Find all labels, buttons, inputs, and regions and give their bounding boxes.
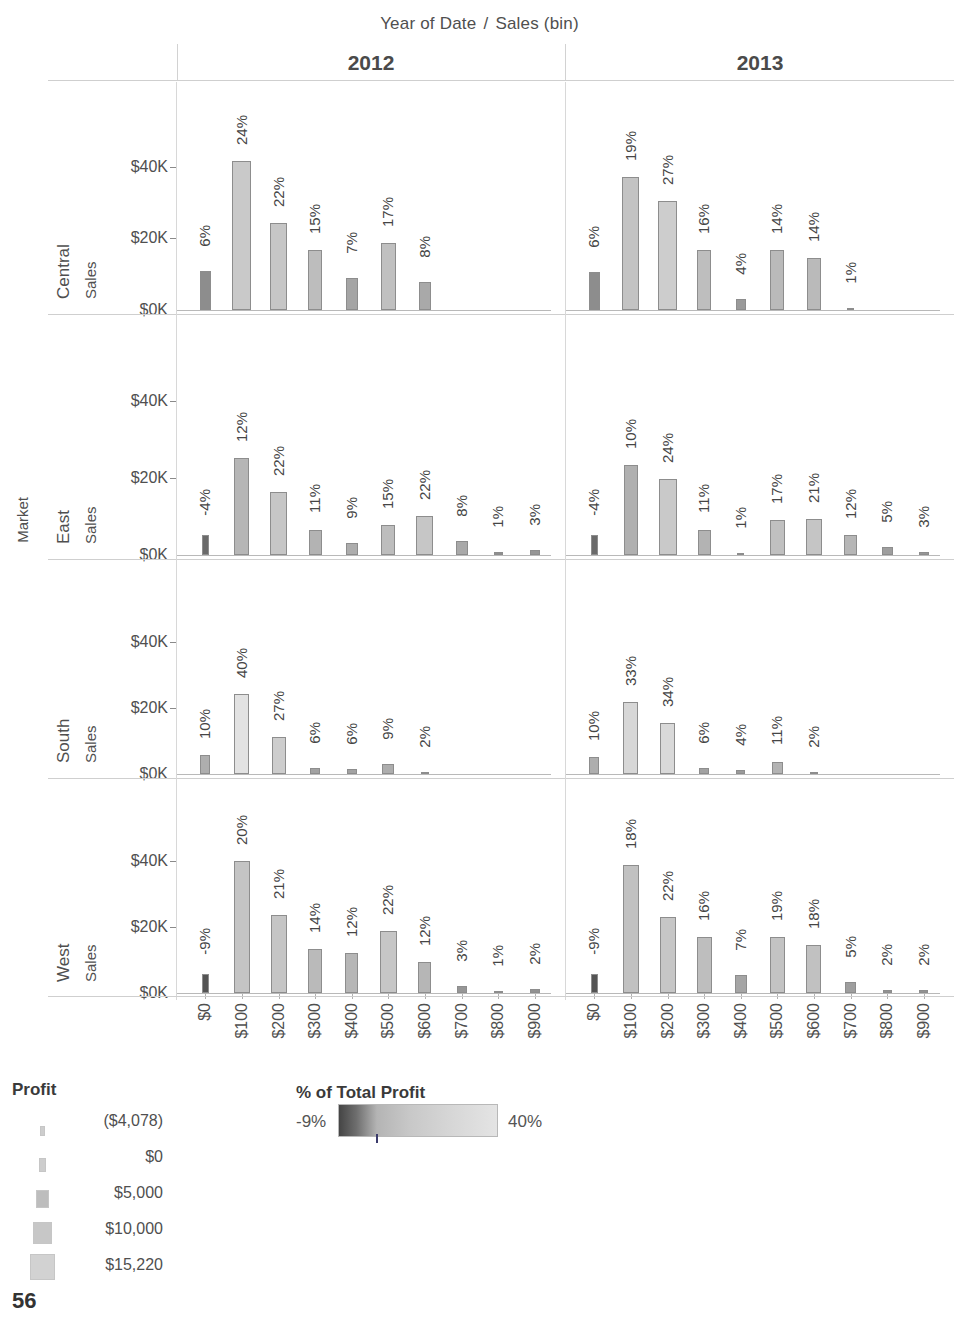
bar-central-2013--200[interactable] [658,201,677,310]
x-tick-label--500[interactable]: $500 [768,1003,786,1039]
bar-west-2013--800[interactable] [883,990,892,993]
bar-central-2013--300[interactable] [697,250,711,310]
x-tick-label--400[interactable]: $400 [343,1003,361,1039]
x-tick-label--400[interactable]: $400 [732,1003,750,1039]
bar-east-2012--200[interactable] [270,492,287,555]
bar-east-2012--700[interactable] [456,541,468,555]
bar-east-2012--400[interactable] [346,543,358,555]
bar-east-2013--300[interactable] [698,530,711,555]
x-tick-label--300[interactable]: $300 [695,1003,713,1039]
bar-east-2012--900[interactable] [530,550,540,555]
bar-west-2013--300[interactable] [697,937,712,993]
x-tick-label--800[interactable]: $800 [489,1003,507,1039]
bar-west-2013--900[interactable] [919,990,928,993]
bar-central-2012--500[interactable] [381,243,396,310]
legend-profit-item[interactable]: $15,220 [12,1252,177,1282]
bar-central-2013--700[interactable] [847,308,854,310]
bar-east-2013--600[interactable] [806,519,822,555]
x-tick-label--600[interactable]: $600 [805,1003,823,1039]
bar-south-2012--500[interactable] [382,764,394,774]
bar-central-2012--100[interactable] [232,161,251,310]
bar-west-2013--500[interactable] [770,937,785,993]
bar-east-2012--100[interactable] [234,458,249,555]
bar-east-2012--0[interactable] [202,535,209,555]
bar-south-2012--200[interactable] [272,737,286,774]
bar-west-2013--200[interactable] [660,917,676,993]
bar-south-2012--600[interactable] [421,772,429,774]
x-tick-label--100[interactable]: $100 [622,1003,640,1039]
bar-south-2012--400[interactable] [347,769,357,774]
bar-central-2012--0[interactable] [200,271,211,310]
bar-west-2013--600[interactable] [806,945,821,993]
bar-east-2012--800[interactable] [494,552,503,555]
bar-west-2013--700[interactable] [845,982,856,993]
x-tick-label--0[interactable]: $0 [585,1003,603,1021]
x-tick-label--600[interactable]: $600 [416,1003,434,1039]
bar-east-2012--600[interactable] [416,516,433,555]
row-header-east[interactable]: East [54,330,74,544]
x-tick-label--800[interactable]: $800 [878,1003,896,1039]
bar-south-2012--300[interactable] [310,768,320,774]
bar-central-2012--300[interactable] [308,250,322,310]
x-tick-label--0[interactable]: $0 [196,1003,214,1021]
bar-central-2013--400[interactable] [736,299,746,310]
bar-east-2013--100[interactable] [624,465,638,555]
legend-profit-item[interactable]: ($4,078) [12,1108,177,1138]
bar-south-2012--100[interactable] [234,694,249,774]
row-header-west[interactable]: West [54,794,74,982]
bar-west-2012--600[interactable] [418,962,431,993]
column-header-2013[interactable]: 2013 [566,48,954,78]
bar-west-2012--0[interactable] [202,974,209,993]
bar-west-2012--200[interactable] [271,915,287,993]
bar-central-2013--600[interactable] [807,258,821,310]
x-tick-label--900[interactable]: $900 [526,1003,544,1039]
bar-south-2013--600[interactable] [810,772,818,774]
bar-west-2013--0[interactable] [591,974,598,993]
bar-central-2012--600[interactable] [419,282,431,310]
bar-east-2013--800[interactable] [882,547,893,555]
bar-central-2012--400[interactable] [346,278,358,310]
bar-west-2012--400[interactable] [345,953,358,993]
bar-west-2012--900[interactable] [530,989,540,993]
bar-south-2013--500[interactable] [772,762,783,774]
x-tick-label--200[interactable]: $200 [270,1003,288,1039]
bar-east-2013--200[interactable] [659,479,677,555]
bar-east-2013--500[interactable] [770,520,785,555]
bar-central-2013--100[interactable] [622,177,639,310]
bar-west-2012--100[interactable] [234,861,250,993]
bar-west-2012--700[interactable] [457,986,467,993]
x-tick-label--700[interactable]: $700 [842,1003,860,1039]
bar-west-2013--100[interactable] [623,865,639,993]
bar-east-2012--500[interactable] [381,525,395,555]
bar-west-2012--800[interactable] [494,991,503,993]
bar-west-2012--500[interactable] [380,931,397,993]
row-header-central[interactable]: Central [54,98,74,299]
x-tick-label--900[interactable]: $900 [915,1003,933,1039]
x-tick-label--700[interactable]: $700 [453,1003,471,1039]
bar-east-2013--0[interactable] [591,535,598,555]
legend-profit-item[interactable]: $0 [12,1144,177,1174]
bar-east-2013--400[interactable] [737,553,744,555]
bar-central-2012--200[interactable] [270,223,287,310]
bar-east-2013--900[interactable] [919,552,929,555]
row-header-south[interactable]: South [54,575,74,763]
legend-profit-item[interactable]: $10,000 [12,1216,177,1246]
legend-profit-item[interactable]: $5,000 [12,1180,177,1210]
x-tick-label--500[interactable]: $500 [379,1003,397,1039]
bar-south-2013--300[interactable] [699,768,709,774]
bar-central-2013--500[interactable] [770,250,784,310]
bar-south-2013--400[interactable] [736,770,745,774]
bar-east-2013--700[interactable] [844,535,857,555]
x-tick-label--300[interactable]: $300 [306,1003,324,1039]
bar-south-2013--200[interactable] [660,723,675,774]
bar-south-2013--100[interactable] [623,702,638,774]
bar-west-2012--300[interactable] [308,949,322,993]
bar-south-2013--0[interactable] [589,757,599,774]
legend-color-gradient[interactable] [338,1104,498,1137]
bar-central-2013--0[interactable] [589,272,600,310]
x-tick-label--200[interactable]: $200 [659,1003,677,1039]
x-tick-label--100[interactable]: $100 [233,1003,251,1039]
bar-east-2012--300[interactable] [309,530,322,555]
column-header-2012[interactable]: 2012 [177,48,565,78]
bar-south-2012--0[interactable] [200,755,210,774]
